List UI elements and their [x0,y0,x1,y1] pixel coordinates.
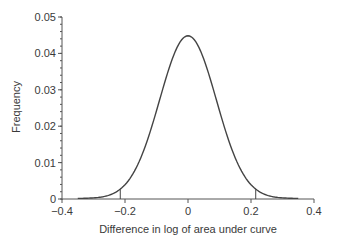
y-tick-label: 0.04 [35,47,56,59]
x-tick-label: −0.4 [51,205,73,217]
x-tick-label: −0.2 [114,205,136,217]
y-tick-label: 0.03 [35,84,56,96]
x-tick-label: 0.2 [243,205,258,217]
density-curve [78,36,299,199]
cutoff-markers [120,190,255,199]
x-tick-label: 0 [185,205,191,217]
x-axis-title: Difference in log of area under curve [99,223,277,235]
x-axis: −0.4−0.200.20.4 [51,199,322,217]
density-chart: 00.010.020.030.040.05 −0.4−0.200.20.4 Di… [0,0,337,245]
y-tick-label: 0.02 [35,120,56,132]
x-tick-label: 0.4 [306,205,321,217]
y-tick-label: 0 [50,193,56,205]
y-tick-label: 0.01 [35,157,56,169]
y-axis-title: Frequency [10,81,22,133]
y-axis: 00.010.020.030.040.05 [35,11,62,205]
y-tick-label: 0.05 [35,11,56,23]
